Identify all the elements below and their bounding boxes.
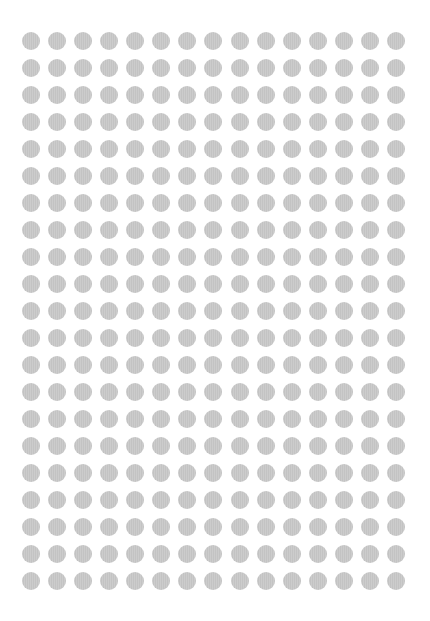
grid-dot: [22, 356, 40, 374]
grid-dot: [126, 302, 144, 320]
grid-dot: [387, 410, 405, 428]
grid-dot: [100, 113, 118, 131]
grid-dot: [22, 59, 40, 77]
grid-dot: [387, 383, 405, 401]
grid-dot: [309, 140, 327, 158]
grid-dot: [48, 545, 66, 563]
grid-dot: [387, 140, 405, 158]
grid-dot: [283, 518, 301, 536]
grid-dot: [126, 329, 144, 347]
grid-dot: [335, 518, 353, 536]
grid-dot: [178, 491, 196, 509]
grid-dot: [178, 275, 196, 293]
grid-dot: [178, 464, 196, 482]
grid-dot: [361, 356, 379, 374]
grid-dot: [283, 194, 301, 212]
grid-dot: [309, 194, 327, 212]
grid-dot: [22, 113, 40, 131]
grid-dot: [48, 32, 66, 50]
grid-dot: [335, 302, 353, 320]
grid-dot: [48, 329, 66, 347]
grid-dot: [361, 275, 379, 293]
grid-dot: [126, 518, 144, 536]
grid-dot: [361, 59, 379, 77]
grid-dot: [231, 248, 249, 266]
grid-dot: [309, 464, 327, 482]
grid-dot: [22, 545, 40, 563]
grid-dot: [257, 86, 275, 104]
grid-dot: [22, 275, 40, 293]
grid-dot: [231, 113, 249, 131]
grid-dot: [74, 221, 92, 239]
grid-dot: [22, 491, 40, 509]
grid-dot: [387, 545, 405, 563]
grid-dot: [335, 140, 353, 158]
grid-dot: [100, 410, 118, 428]
grid-dot: [126, 140, 144, 158]
grid-dot: [74, 32, 92, 50]
grid-dot: [152, 518, 170, 536]
grid-dot: [231, 167, 249, 185]
grid-dot: [100, 518, 118, 536]
grid-dot: [152, 356, 170, 374]
grid-dot: [231, 518, 249, 536]
grid-dot: [100, 221, 118, 239]
grid-dot: [100, 545, 118, 563]
grid-dot: [257, 194, 275, 212]
grid-dot: [257, 464, 275, 482]
grid-dot: [48, 221, 66, 239]
grid-dot: [48, 437, 66, 455]
grid-dot: [74, 59, 92, 77]
grid-dot: [48, 410, 66, 428]
grid-dot: [178, 356, 196, 374]
grid-dot: [22, 329, 40, 347]
grid-dot: [335, 221, 353, 239]
grid-dot: [178, 221, 196, 239]
grid-dot: [309, 113, 327, 131]
grid-dot: [387, 302, 405, 320]
grid-dot: [74, 410, 92, 428]
grid-dot: [387, 86, 405, 104]
grid-dot: [361, 437, 379, 455]
grid-dot: [231, 302, 249, 320]
grid-dot: [283, 113, 301, 131]
grid-dot: [257, 383, 275, 401]
grid-dot: [74, 518, 92, 536]
grid-dot: [204, 113, 222, 131]
grid-dot: [126, 383, 144, 401]
grid-dot: [204, 32, 222, 50]
grid-dot: [231, 329, 249, 347]
grid-dot: [152, 464, 170, 482]
grid-dot: [152, 86, 170, 104]
grid-dot: [387, 248, 405, 266]
grid-dot: [48, 140, 66, 158]
grid-dot: [361, 410, 379, 428]
grid-dot: [387, 167, 405, 185]
grid-dot: [152, 32, 170, 50]
grid-dot: [100, 302, 118, 320]
grid-dot: [361, 329, 379, 347]
grid-dot: [309, 86, 327, 104]
grid-dot: [335, 491, 353, 509]
grid-dot: [361, 302, 379, 320]
grid-dot: [126, 194, 144, 212]
grid-dot: [309, 275, 327, 293]
grid-dot: [178, 167, 196, 185]
grid-dot: [48, 302, 66, 320]
grid-dot: [48, 86, 66, 104]
grid-dot: [257, 302, 275, 320]
grid-dot: [152, 59, 170, 77]
grid-dot: [100, 356, 118, 374]
grid-dot: [204, 545, 222, 563]
grid-dot: [100, 32, 118, 50]
grid-dot: [309, 410, 327, 428]
grid-dot: [152, 221, 170, 239]
grid-dot: [335, 32, 353, 50]
grid-dot: [22, 518, 40, 536]
grid-dot: [48, 572, 66, 590]
grid-dot: [257, 410, 275, 428]
grid-dot: [48, 248, 66, 266]
grid-dot: [48, 464, 66, 482]
grid-dot: [74, 167, 92, 185]
grid-dot: [126, 545, 144, 563]
